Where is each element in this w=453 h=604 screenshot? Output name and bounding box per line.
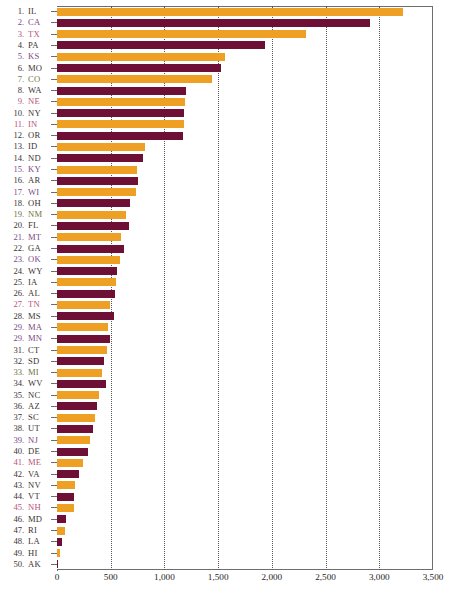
bar-row[interactable]: 9.NE [0, 96, 453, 107]
bar[interactable] [57, 402, 97, 410]
bar-row[interactable]: 25.IA [0, 277, 453, 288]
bar-row[interactable]: 12.OR [0, 130, 453, 141]
bar-row[interactable]: 22.GA [0, 243, 453, 254]
bar-row[interactable]: 48.LA [0, 536, 453, 547]
bar-row[interactable]: 31.CT [0, 344, 453, 355]
bar-row[interactable]: 29.MN [0, 333, 453, 344]
bar-row[interactable]: 20.FL [0, 220, 453, 231]
bar-row[interactable]: 7.CO [0, 74, 453, 85]
bar[interactable] [57, 8, 403, 16]
bar-row[interactable]: 40.DE [0, 446, 453, 457]
bar-row[interactable]: 34.WV [0, 378, 453, 389]
bar[interactable] [57, 278, 116, 286]
bar[interactable] [57, 245, 124, 253]
bar[interactable] [57, 335, 110, 343]
bar[interactable] [57, 493, 74, 501]
bar[interactable] [57, 504, 74, 512]
bar[interactable] [57, 290, 115, 298]
bar[interactable] [57, 41, 265, 49]
bar-row[interactable]: 46.MD [0, 514, 453, 525]
bar[interactable] [57, 211, 126, 219]
bar[interactable] [57, 459, 83, 467]
bar[interactable] [57, 481, 75, 489]
bar[interactable] [57, 560, 58, 568]
bar-row[interactable]: 10.NY [0, 108, 453, 119]
bar-row[interactable]: 43.NV [0, 480, 453, 491]
bar[interactable] [57, 75, 212, 83]
bar[interactable] [57, 538, 62, 546]
bar-row[interactable]: 26.AL [0, 288, 453, 299]
bar-row[interactable]: 33.MI [0, 367, 453, 378]
bar-row[interactable]: 35.NC [0, 390, 453, 401]
bar[interactable] [57, 53, 225, 61]
bar[interactable] [57, 267, 117, 275]
bar[interactable] [57, 346, 107, 354]
bar[interactable] [57, 188, 136, 196]
bar-row[interactable]: 28.MS [0, 311, 453, 322]
bar-row[interactable]: 23.OK [0, 254, 453, 265]
bar-row[interactable]: 29.MA [0, 322, 453, 333]
bar-row[interactable]: 24.WY [0, 265, 453, 276]
bar-row[interactable]: 27.TN [0, 299, 453, 310]
bar[interactable] [57, 470, 79, 478]
bar-row[interactable]: 47.RI [0, 525, 453, 536]
bar-row[interactable]: 42.VA [0, 468, 453, 479]
bar-row[interactable]: 1.IL [0, 6, 453, 17]
bar[interactable] [57, 515, 66, 523]
bar[interactable] [57, 222, 129, 230]
bar[interactable] [57, 199, 130, 207]
bar[interactable] [57, 30, 306, 38]
bar[interactable] [57, 233, 121, 241]
bar-row[interactable]: 32.SD [0, 356, 453, 367]
bar-row[interactable]: 19.NM [0, 209, 453, 220]
bar[interactable] [57, 109, 184, 117]
bar[interactable] [57, 436, 90, 444]
bar-row[interactable]: 45.NH [0, 502, 453, 513]
bar[interactable] [57, 87, 186, 95]
bar-row[interactable]: 17.WI [0, 186, 453, 197]
bar-row[interactable]: 38.UT [0, 423, 453, 434]
bar[interactable] [57, 448, 88, 456]
bar-row[interactable]: 21.MT [0, 232, 453, 243]
bar-row[interactable]: 15.KY [0, 164, 453, 175]
bar-row[interactable]: 49.HI [0, 547, 453, 558]
bar[interactable] [57, 369, 102, 377]
bar-row[interactable]: 3.TX [0, 29, 453, 40]
bar[interactable] [57, 301, 110, 309]
bar[interactable] [57, 357, 104, 365]
bar[interactable] [57, 154, 143, 162]
bar-row[interactable]: 44.VT [0, 491, 453, 502]
bar[interactable] [57, 527, 65, 535]
bar[interactable] [57, 549, 60, 557]
bar[interactable] [57, 64, 221, 72]
bar-row[interactable]: 2.CA [0, 17, 453, 28]
bar[interactable] [57, 323, 108, 331]
bar[interactable] [57, 256, 120, 264]
bar-row[interactable]: 14.ND [0, 153, 453, 164]
bar[interactable] [57, 143, 145, 151]
bar-row[interactable]: 37.SC [0, 412, 453, 423]
bar[interactable] [57, 19, 370, 27]
bar[interactable] [57, 98, 185, 106]
bar[interactable] [57, 166, 137, 174]
bar[interactable] [57, 425, 93, 433]
bar[interactable] [57, 414, 95, 422]
bar[interactable] [57, 380, 106, 388]
bar-row[interactable]: 4.PA [0, 40, 453, 51]
bar-row[interactable]: 6.MO [0, 62, 453, 73]
bar[interactable] [57, 132, 183, 140]
bar[interactable] [57, 391, 99, 399]
bar-row[interactable]: 18.OH [0, 198, 453, 209]
bar-row[interactable]: 39.NJ [0, 435, 453, 446]
bar-row[interactable]: 36.AZ [0, 401, 453, 412]
bar[interactable] [57, 177, 138, 185]
bar-row[interactable]: 8.WA [0, 85, 453, 96]
bar-row[interactable]: 50.AK [0, 559, 453, 570]
bar[interactable] [57, 312, 114, 320]
bar-row[interactable]: 16.AR [0, 175, 453, 186]
bar-row[interactable]: 41.ME [0, 457, 453, 468]
bar-row[interactable]: 13.ID [0, 141, 453, 152]
bar-row[interactable]: 5.KS [0, 51, 453, 62]
bar-row[interactable]: 11.IN [0, 119, 453, 130]
bar[interactable] [57, 120, 184, 128]
